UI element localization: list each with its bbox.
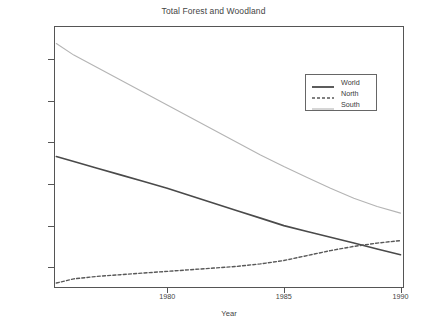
y-tick-mark <box>48 226 54 227</box>
legend-label-south: South <box>341 100 360 109</box>
series-line-south <box>56 43 400 213</box>
y-tick-mark <box>48 142 54 143</box>
x-axis-title: Year <box>54 309 404 318</box>
plot-lines <box>0 0 427 327</box>
legend-item-north[interactable]: North <box>306 88 378 99</box>
series-line-north <box>56 241 400 283</box>
legend-item-world[interactable]: World <box>306 77 378 88</box>
x-tick-mark <box>401 288 402 293</box>
x-tick-mark <box>284 288 285 293</box>
legend-swatch-south <box>311 100 335 110</box>
y-tick-mark <box>48 184 54 185</box>
legend-item-south[interactable]: South <box>306 99 378 110</box>
x-tick-label: 1985 <box>264 292 304 301</box>
chart-figure: Total Forest and Woodland Forest and Woo… <box>0 0 427 327</box>
chart-legend[interactable]: World North South <box>305 74 377 111</box>
legend-label-north: North <box>341 89 359 98</box>
legend-swatch-north <box>311 89 335 99</box>
y-tick-mark <box>48 101 54 102</box>
y-tick-mark <box>48 267 54 268</box>
legend-swatch-world <box>311 78 335 88</box>
series-line-world <box>56 157 400 255</box>
y-tick-mark <box>48 59 54 60</box>
x-tick-label: 1980 <box>147 292 187 301</box>
legend-label-world: World <box>341 78 360 87</box>
x-tick-mark <box>167 288 168 293</box>
x-tick-label: 1990 <box>381 292 421 301</box>
